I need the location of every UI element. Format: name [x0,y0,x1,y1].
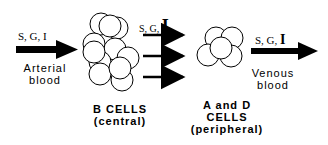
inflow-label: S, G, I [18,30,47,42]
b-cells-label: B CELLS (central) [85,103,155,127]
venous-caption: Venous blood [243,67,303,91]
ad-cells-label: A and D CELLS (peripheral) [187,99,267,135]
ad-cells-cluster-icon [197,27,243,67]
outflow-label: S, G, I [255,32,286,48]
arterial-arrow-icon [16,40,78,59]
middle-flow-label: S, G, I [139,16,169,37]
b-cells-cluster-icon [83,13,139,91]
arterial-caption: Arterial blood [14,62,76,86]
middle-arrows-icon [143,35,183,77]
